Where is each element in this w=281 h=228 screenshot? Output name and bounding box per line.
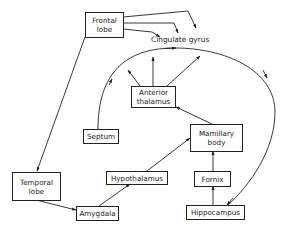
node-hypothalamus-label: Hypothalamus [111, 174, 163, 183]
node-amygdala: Amygdala [76, 206, 119, 221]
node-anterior-thalamus-line2: thalamus [137, 97, 170, 106]
node-hypothalamus: Hypothalamus [106, 171, 168, 185]
node-anterior-thalamus: Anterior thalamus [131, 86, 176, 108]
node-hippocampus-label: Hippocampus [191, 208, 240, 217]
node-temporal-lobe: Temporal lobe [12, 172, 61, 201]
node-temporal-lobe-line1: Temporal [20, 178, 53, 187]
edge-mamillary-thalamus [176, 107, 212, 124]
edge-frontal-temporal [37, 37, 85, 171]
node-mamillary-body-line1: Mamillary [199, 129, 234, 138]
node-fornix-label: Fornix [202, 175, 224, 184]
node-frontal-lobe-line2: lobe [97, 25, 112, 34]
node-septum: Septum [83, 129, 119, 144]
node-anterior-thalamus-line1: Anterior [139, 88, 168, 97]
node-frontal-lobe: Frontal lobe [85, 12, 124, 38]
edge-thalamus-cingulate-1 [128, 70, 140, 86]
edge-thalamus-cingulate-3 [167, 56, 200, 86]
node-frontal-lobe-line1: Frontal [92, 16, 117, 25]
node-mamillary-body: Mamillary body [190, 124, 243, 152]
node-temporal-lobe-line2: lobe [29, 187, 44, 196]
node-mamillary-body-line2: body [208, 138, 226, 147]
node-fornix: Fornix [194, 171, 231, 187]
edge-temporal-amygdala [36, 200, 76, 210]
edge-frontal-cingulate-1 [123, 11, 196, 28]
edge-hypothalamus-mamillary [147, 138, 190, 171]
edge-amygdala-hypothalamus [99, 184, 130, 206]
node-hippocampus: Hippocampus [186, 205, 245, 220]
node-amygdala-label: Amygdala [79, 209, 115, 218]
node-septum-label: Septum [87, 132, 115, 141]
node-cingulate-gyrus: Cingulate gyrus [151, 35, 209, 44]
